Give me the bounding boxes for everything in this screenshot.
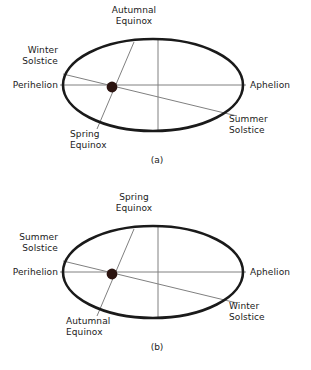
label-perihelion-b: Perihelion [0, 267, 58, 278]
figure-caption-a: (a) [140, 155, 174, 166]
label-perihelion-a: Perihelion [0, 80, 58, 91]
label-summer-solstice-b: Summer Solstice [2, 232, 58, 253]
label-spring-equinox-b: Spring Equinox [92, 192, 176, 213]
label-summer-solstice-a: Summer Solstice [229, 114, 301, 135]
solstice-line-b [63, 261, 237, 303]
label-winter-solstice-b: Winter Solstice [229, 301, 301, 322]
label-autumnal-equinox-a: Autumnal Equinox [92, 5, 176, 26]
orbit-figure-b: Spring Equinox Summer Solstice Perihelio… [0, 185, 311, 370]
label-spring-equinox-a: Spring Equinox [70, 129, 132, 150]
label-aphelion-a: Aphelion [250, 80, 310, 91]
figure-caption-b: (b) [140, 342, 174, 353]
sun-marker-a [107, 82, 118, 93]
orbit-figure-a: Autumnal Equinox Winter Solstice Perihel… [0, 0, 311, 185]
label-winter-solstice-a: Winter Solstice [2, 45, 58, 66]
sun-marker-b [107, 269, 118, 280]
solstice-line-a [63, 74, 237, 116]
orbit-diagram-figure-stack: Autumnal Equinox Winter Solstice Perihel… [0, 0, 311, 370]
label-autumnal-equinox-b: Autumnal Equinox [66, 316, 136, 337]
label-aphelion-b: Aphelion [250, 267, 310, 278]
